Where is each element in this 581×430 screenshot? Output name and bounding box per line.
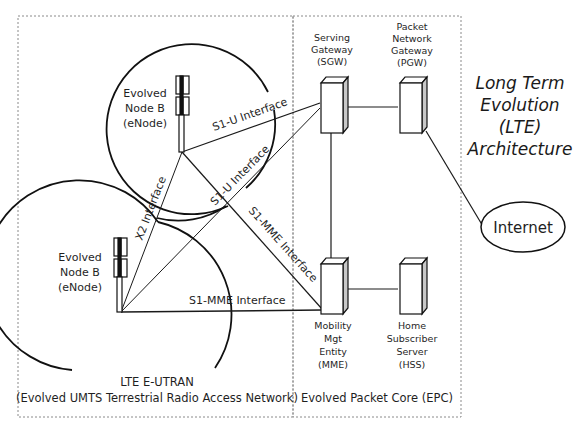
internet-label: Internet [493, 219, 553, 237]
diagram-title-line-1: Long Term [475, 73, 564, 93]
diagram-title-line-2: Evolution [480, 95, 559, 115]
diagram-title-line-3: (LTE) [499, 117, 542, 137]
enode-top-label-3: (eNode) [123, 117, 167, 130]
pgw-label-2: Network [392, 33, 432, 44]
eutran-caption-1: LTE E-UTRAN [120, 375, 194, 389]
enode-bottom-label-2: Node B [60, 266, 100, 279]
server-icon-hss [400, 258, 427, 314]
s1u-diag-label: S1-U Interface [208, 142, 272, 208]
server-icon-pgw [400, 77, 427, 133]
antenna-icon-top [176, 76, 189, 152]
diagram-title-line-4: Architecture [467, 139, 573, 159]
hss-label-1: Home [398, 320, 426, 331]
sgw-label-1: Serving [314, 32, 350, 43]
server-icon-mme [321, 258, 348, 314]
x2-line [121, 152, 182, 312]
hss-label-3: Server [396, 346, 427, 357]
enode-top-label-1: Evolved [123, 87, 167, 100]
s1mme-bottom-line [121, 310, 322, 312]
sgw-label-3: (SGW) [317, 56, 347, 67]
mme-label-4: (MME) [318, 359, 348, 370]
mme-label-2: Mgt [324, 333, 342, 344]
enode-top-label-2: Node B [125, 102, 165, 115]
pgw-label-3: Gateway [391, 45, 433, 56]
server-icon-sgw [321, 77, 348, 133]
epc-caption: Evolved Packet Core (EPC) [301, 391, 453, 405]
eutran-caption-2: (Evolved UMTS Terrestrial Radio Access N… [16, 391, 298, 405]
hss-label-4: (HSS) [399, 359, 426, 370]
x2-label: X2 Interface [133, 174, 169, 242]
lte-architecture-diagram: Internet Evolved Node B (eNode) Evolved … [0, 0, 581, 430]
s1mme-diag-label: S1-MME Interface [246, 204, 320, 285]
hss-label-2: Subscriber [387, 333, 438, 344]
mme-label-1: Mobility [314, 320, 352, 331]
enode-bottom-label-3: (eNode) [58, 281, 102, 294]
s1mme-diag-line [182, 152, 322, 309]
sgw-label-2: Gateway [311, 44, 353, 55]
pgw-label-4: (PGW) [397, 57, 427, 68]
enode-bottom-label-1: Evolved [58, 251, 102, 264]
mme-label-3: Entity [319, 346, 347, 357]
s1mme-bottom-label: S1-MME Interface [189, 294, 286, 307]
pgw-label-1: Packet [396, 21, 427, 32]
